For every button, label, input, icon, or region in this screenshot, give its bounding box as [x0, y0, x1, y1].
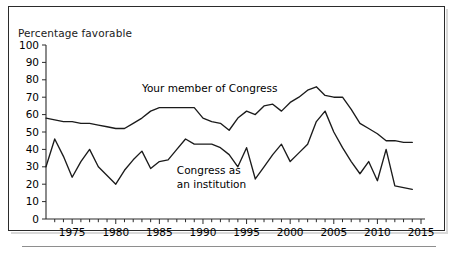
line-chart: 0102030405060708090100 19751980198519901… [0, 0, 453, 263]
x-tick-label-1985: 1985 [146, 226, 173, 238]
x-axis: 197519801985199019952000200520102015 [46, 219, 434, 238]
y-tick-label-30: 30 [26, 160, 39, 172]
y-tick-label-0: 0 [32, 213, 39, 225]
annotation-1: Congress as [177, 164, 241, 176]
x-tick-label-1980: 1980 [102, 226, 129, 238]
x-tick-label-2000: 2000 [277, 226, 304, 238]
series-line-your-member-of-congress [46, 87, 412, 143]
x-tick-label-1975: 1975 [59, 226, 86, 238]
y-tick-label-100: 100 [19, 39, 39, 51]
annotation-2: an institution [177, 178, 246, 190]
y-tick-label-90: 90 [26, 56, 39, 68]
y-axis: 0102030405060708090100 [19, 39, 46, 225]
y-tick-label-80: 80 [26, 73, 39, 85]
series-annotations: Your member of CongressCongress asan ins… [141, 82, 277, 190]
x-tick-label-1995: 1995 [233, 226, 260, 238]
y-tick-label-60: 60 [26, 108, 39, 120]
annotation-0: Your member of Congress [141, 82, 277, 94]
x-tick-label-2005: 2005 [320, 226, 347, 238]
y-tick-label-70: 70 [26, 91, 39, 103]
y-tick-label-50: 50 [26, 126, 39, 138]
y-tick-label-40: 40 [26, 143, 39, 155]
x-tick-label-1990: 1990 [190, 226, 217, 238]
y-tick-label-10: 10 [26, 195, 39, 207]
x-tick-label-2010: 2010 [364, 226, 391, 238]
y-tick-label-20: 20 [26, 178, 39, 190]
x-tick-label-2015: 2015 [408, 226, 435, 238]
